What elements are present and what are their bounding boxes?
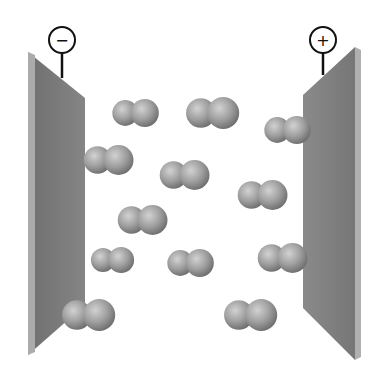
atom-sphere xyxy=(278,243,308,273)
atom-sphere xyxy=(131,99,159,127)
positive-terminal: + xyxy=(310,27,336,53)
molecule xyxy=(258,243,308,273)
positive-plate xyxy=(303,47,361,360)
atom-sphere xyxy=(104,145,134,175)
molecule xyxy=(112,99,158,127)
atom-sphere xyxy=(258,180,288,210)
atom-sphere xyxy=(138,205,168,235)
atom-sphere xyxy=(186,249,214,277)
atom-sphere xyxy=(245,299,277,331)
negative-terminal: − xyxy=(49,27,75,53)
molecule xyxy=(238,180,288,210)
atom-sphere xyxy=(207,97,239,129)
molecule xyxy=(91,247,134,273)
molecule xyxy=(224,299,277,331)
molecule xyxy=(62,299,115,331)
molecule xyxy=(118,205,168,235)
atom-sphere xyxy=(108,247,134,273)
molecule xyxy=(84,145,134,175)
molecule xyxy=(160,160,210,190)
plus-icon: + xyxy=(316,31,329,50)
electrode-diagram: − + xyxy=(0,0,374,375)
atom-sphere xyxy=(180,160,210,190)
minus-icon: − xyxy=(55,31,68,50)
atom-sphere xyxy=(283,116,311,144)
molecule xyxy=(264,116,310,144)
molecule xyxy=(186,97,239,129)
gas-molecules xyxy=(62,97,311,331)
molecule xyxy=(167,249,213,277)
diagram-canvas: − + xyxy=(0,0,374,375)
atom-sphere xyxy=(83,299,115,331)
